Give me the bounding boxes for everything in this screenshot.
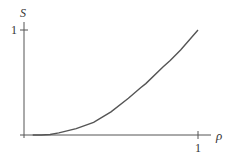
y-axis-label: S bbox=[20, 6, 26, 20]
curve-s-of-rho bbox=[33, 30, 198, 135]
x-axis-label: ρ bbox=[215, 128, 222, 143]
y-tick-label: 1 bbox=[11, 23, 17, 37]
chart: S 1 ρ 1 bbox=[0, 0, 236, 160]
x-tick-label: 1 bbox=[195, 141, 201, 155]
